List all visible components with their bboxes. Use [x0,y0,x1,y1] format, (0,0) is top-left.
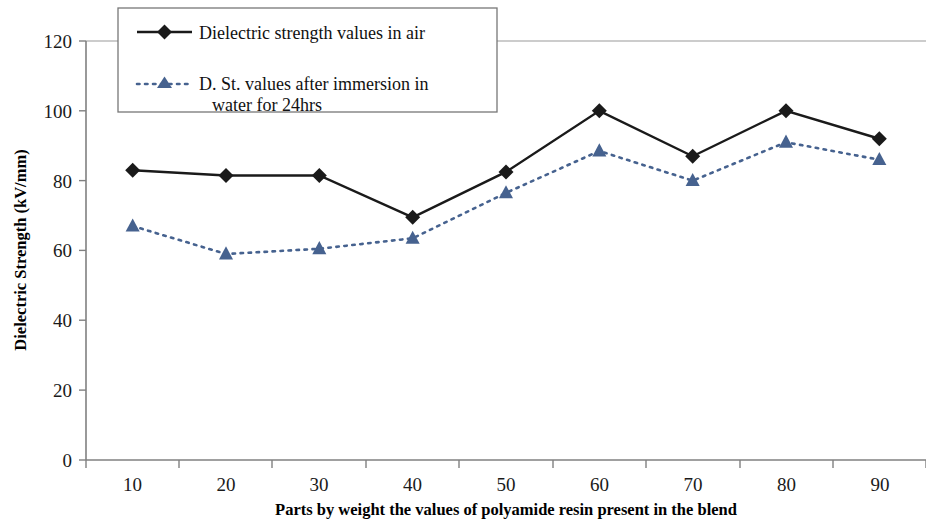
y-tick-label: 120 [44,31,73,52]
x-tick-label: 30 [310,474,329,495]
x-tick-label: 20 [217,474,236,495]
x-tick-label: 40 [403,474,422,495]
legend-label-water-line2: water for 24hrs [212,95,322,115]
x-tick-label: 50 [497,474,516,495]
y-tick-label: 100 [44,101,73,122]
x-tick-label: 80 [777,474,796,495]
chart-legend: Dielectric strength values in air D. St.… [118,8,497,115]
x-axis-title: Parts by weight the values of polyamide … [275,500,737,519]
y-axis-title: Dielectric Strength (kV/mm) [11,149,30,350]
x-tick-label: 90 [871,474,890,495]
legend-label-air: Dielectric strength values in air [199,23,425,43]
x-tick-label: 10 [123,474,142,495]
dielectric-strength-line-chart: 120 100 80 60 40 20 0 10 20 30 40 [0,0,926,520]
legend-label-water: D. St. values after immersion in [199,74,428,94]
y-tick-label: 40 [53,310,72,331]
chart-container: 120 100 80 60 40 20 0 10 20 30 40 [0,0,926,520]
y-tick-label: 0 [63,450,73,471]
y-tick-label: 80 [53,171,72,192]
x-tick-label: 70 [684,474,703,495]
y-tick-label: 20 [53,380,72,401]
y-tick-label: 60 [53,240,72,261]
x-tick-label: 60 [590,474,609,495]
